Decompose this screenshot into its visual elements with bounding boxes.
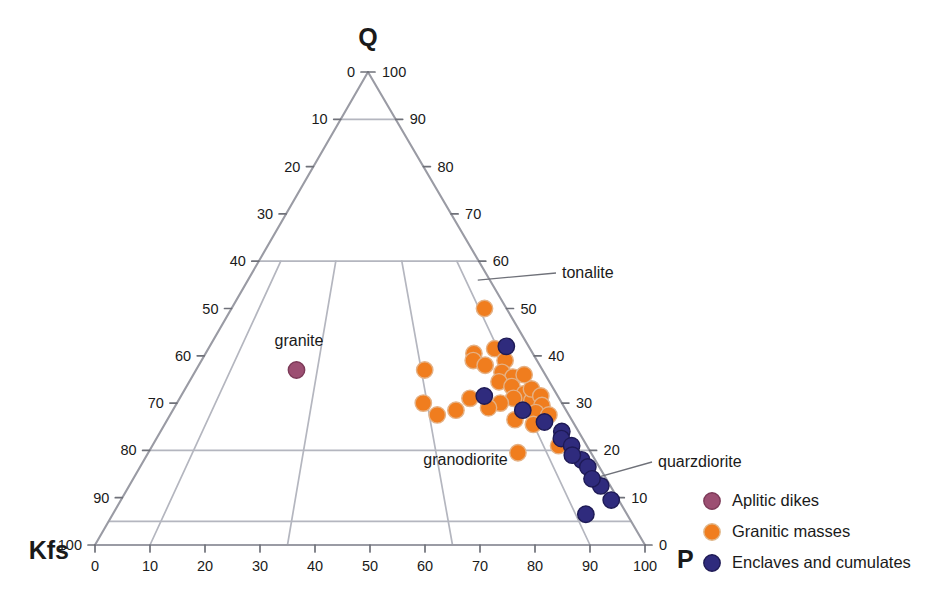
legend-swatch	[704, 555, 720, 571]
field-label-granite: granite	[275, 332, 324, 349]
tick-label-right-70: 70	[465, 206, 481, 222]
legend: Aplitic dikesGranitic massesEnclaves and…	[704, 491, 911, 571]
tick-label-right-80: 80	[437, 159, 453, 175]
tick-label-left-40: 40	[230, 253, 246, 269]
grid-layer	[109, 119, 632, 545]
tick-label-right-20: 20	[604, 442, 620, 458]
callout-label-quarzdiorite: quarzdiorite	[658, 453, 742, 470]
tick-label-left-10: 10	[312, 111, 328, 127]
tick-label-left-50: 50	[202, 301, 218, 317]
legend-item: Granitic masses	[704, 522, 850, 540]
data-point	[516, 367, 532, 383]
tick-label-bottom-60: 60	[417, 558, 433, 574]
callout-leader-tonalite	[478, 273, 556, 280]
tick-label-left-60: 60	[175, 348, 191, 364]
tick-label-bottom-30: 30	[252, 558, 268, 574]
tick-label-layer: 0102030405060708090100100908070605040302…	[58, 64, 667, 574]
tick-label-right-30: 30	[576, 395, 592, 411]
tick-label-right-60: 60	[493, 253, 509, 269]
tick-label-bottom-90: 90	[582, 558, 598, 574]
tick-label-bottom-80: 80	[527, 558, 543, 574]
tick-label-bottom-100: 100	[633, 558, 657, 574]
data-point	[288, 362, 304, 378]
tick-label-left-20: 20	[284, 159, 300, 175]
tick-label-left-30: 30	[257, 206, 273, 222]
tick-label-bottom-50: 50	[362, 558, 378, 574]
data-point	[417, 362, 433, 378]
qap-ternary-diagram: 0102030405060708090100100908070605040302…	[0, 0, 947, 601]
grid-line-pratio-35	[288, 261, 336, 545]
apex-label-kfs: Kfs	[29, 536, 69, 564]
data-point	[448, 402, 464, 418]
data-point	[476, 300, 492, 316]
data-point	[429, 407, 445, 423]
data-point	[476, 388, 492, 404]
tick-label-right-0: 0	[659, 537, 667, 553]
tick-label-left-70: 70	[148, 395, 164, 411]
tick-label-bottom-0: 0	[91, 558, 99, 574]
tick-label-bottom-20: 20	[197, 558, 213, 574]
data-point	[477, 357, 493, 373]
callout-label-tonalite: tonalite	[562, 264, 614, 281]
ternary-plot-canvas: 0102030405060708090100100908070605040302…	[0, 0, 947, 601]
tick-label-right-90: 90	[410, 111, 426, 127]
legend-swatch	[704, 493, 720, 509]
tick-label-right-10: 10	[631, 490, 647, 506]
tick-label-left-0: 0	[347, 64, 355, 80]
tick-label-right-100: 100	[382, 64, 406, 80]
legend-label: Granitic masses	[732, 522, 850, 540]
apex-label-p: P	[677, 545, 694, 573]
legend-label: Enclaves and cumulates	[732, 553, 911, 571]
legend-label: Aplitic dikes	[732, 491, 819, 509]
legend-item: Aplitic dikes	[704, 491, 819, 509]
data-point	[415, 395, 431, 411]
legend-item: Enclaves and cumulates	[704, 553, 911, 571]
tick-label-left-80: 80	[120, 442, 136, 458]
data-point	[510, 445, 526, 461]
data-point-layer	[288, 300, 619, 522]
data-point	[462, 390, 478, 406]
tick-label-bottom-10: 10	[142, 558, 158, 574]
tick-label-bottom-40: 40	[307, 558, 323, 574]
tick-label-bottom-70: 70	[472, 558, 488, 574]
tick-layer	[88, 72, 652, 552]
field-label-granodiorite: granodiorite	[423, 451, 508, 468]
data-point	[578, 506, 594, 522]
tick-label-right-50: 50	[521, 301, 537, 317]
data-point	[584, 471, 600, 487]
data-point	[536, 414, 552, 430]
apex-label-q: Q	[358, 23, 377, 51]
tick-label-left-90: 90	[93, 490, 109, 506]
data-point	[498, 338, 514, 354]
data-point	[603, 492, 619, 508]
legend-swatch	[704, 524, 720, 540]
data-point	[515, 402, 531, 418]
data-point	[564, 447, 580, 463]
axis-layer	[95, 72, 645, 545]
tick-label-right-40: 40	[548, 348, 564, 364]
